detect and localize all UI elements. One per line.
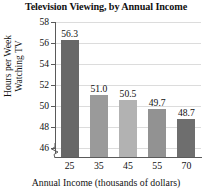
axis-break-icon (50, 143, 61, 158)
y-axis-tick-label: 52 (29, 80, 49, 90)
x-axis-line (55, 157, 202, 158)
x-axis-title: Annual Income (thousands of dollars) (0, 177, 212, 188)
bar-value-label: 48.7 (171, 108, 201, 118)
gridline (55, 22, 201, 23)
bar (177, 119, 195, 158)
x-axis-tick-label: 25 (55, 160, 85, 171)
y-axis-tick-mark (51, 106, 55, 107)
x-axis-tick-label: 45 (113, 160, 143, 171)
y-axis-tick-mark (51, 85, 55, 86)
y-axis-tick-mark (51, 127, 55, 128)
bar (90, 95, 108, 158)
bar-value-label: 49.7 (142, 98, 172, 108)
y-axis-title-line-1: Hours per Week (2, 6, 13, 126)
bar-value-label: 50.5 (113, 89, 143, 99)
bar-chart-figure: Television Viewing, by Annual Income Hou… (0, 0, 212, 193)
y-axis-tick-labels: 58565452504846 (27, 0, 49, 193)
y-axis-tick-label: 56 (29, 38, 49, 48)
y-axis-tick-label: 46 (29, 143, 49, 153)
y-axis-tick-mark (51, 148, 55, 149)
y-axis-title: Hours per Week Watching TV (2, 6, 30, 126)
x-axis-tick-label: 70 (171, 160, 201, 171)
y-axis-line (55, 22, 56, 153)
y-axis-tick-label: 50 (29, 101, 49, 111)
bar-value-label: 56.3 (55, 29, 85, 39)
bar-value-label: 51.0 (84, 84, 114, 94)
y-axis-title-line-2: Watching TV (13, 6, 24, 126)
y-axis-tick-mark (51, 22, 55, 23)
y-axis-tick-mark (51, 64, 55, 65)
plot-area: 56.351.050.549.748.7 (55, 22, 201, 158)
bar (61, 40, 79, 158)
y-axis-tick-label: 54 (29, 59, 49, 69)
x-axis-tick-label: 35 (84, 160, 114, 171)
y-axis-tick-mark (51, 43, 55, 44)
x-axis-tick-label: 55 (142, 160, 172, 171)
bar (148, 109, 166, 158)
y-axis-tick-label: 58 (29, 17, 49, 27)
bar (119, 100, 137, 158)
y-axis-tick-label: 48 (29, 122, 49, 132)
